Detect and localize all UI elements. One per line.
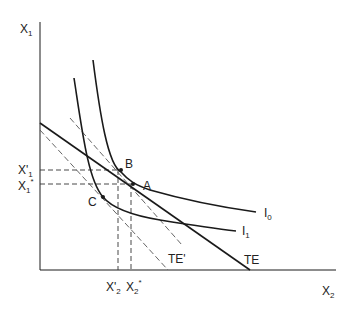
te-prime-label: TE' xyxy=(168,252,186,266)
x1-star-tick: X1* xyxy=(18,177,34,195)
point-a xyxy=(131,182,135,186)
te-line xyxy=(40,123,250,270)
point-a-label: A xyxy=(143,179,151,193)
point-b xyxy=(119,168,123,172)
point-b-label: B xyxy=(125,157,133,171)
x-axis-label: X2 xyxy=(322,284,335,300)
i1-label: I1 xyxy=(242,224,250,240)
i0-label: I0 xyxy=(264,206,272,222)
point-c xyxy=(101,195,105,199)
indifference-curve-i0 xyxy=(93,60,256,212)
diagram-canvas: X1 X2 B A C I0 I1 TE TE' X'1 X1* X'2 X2* xyxy=(0,0,349,311)
x2-prime-tick: X'2 xyxy=(106,280,121,296)
x2-star-tick: X2* xyxy=(126,278,142,296)
te-label: TE xyxy=(244,253,259,267)
point-c-label: C xyxy=(88,195,97,209)
y-axis-label: X1 xyxy=(20,22,33,38)
tangent-b-line xyxy=(70,118,182,245)
